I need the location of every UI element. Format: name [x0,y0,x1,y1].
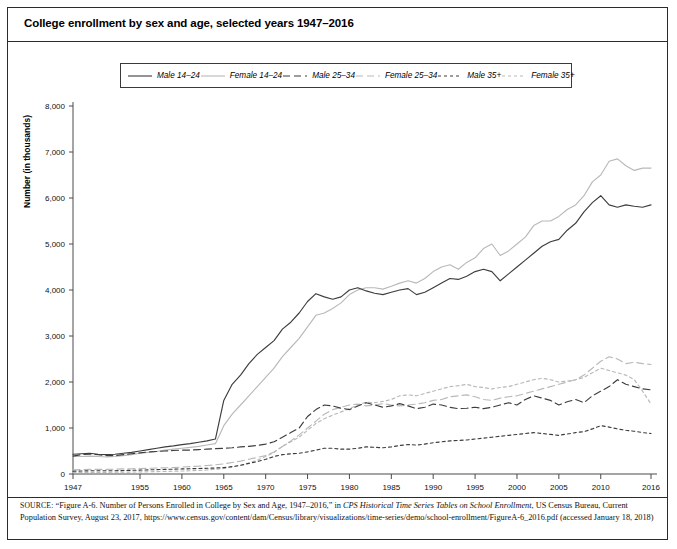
x-tick-label: 1960 [173,483,191,492]
x-tick-label: 2010 [592,483,610,492]
y-tick-label: 5,000 [45,240,66,249]
y-tick-label: 6,000 [45,194,66,203]
y-tick-label: 0 [61,470,66,479]
x-tick-label: 1947 [64,483,82,492]
x-tick-label: 1995 [466,483,484,492]
y-tick-label: 3,000 [45,332,66,341]
series-line-male-14-24 [73,196,651,455]
x-tick-label: 1970 [257,483,275,492]
plot-area: 01,0002,0003,0004,0005,0006,0007,0008,00… [8,8,667,541]
source-divider-bottom [8,539,667,540]
source-label: SOURCE: [20,501,53,510]
source-note: SOURCE: “Figure A-6. Number of Persons E… [20,500,660,524]
x-tick-label: 2016 [642,483,660,492]
line-chart: 01,0002,0003,0004,0005,0006,0007,0008,00… [8,8,667,541]
x-tick-label: 2005 [550,483,568,492]
source-publication-title: CPS Historical Time Series Tables on Sch… [343,501,532,510]
y-tick-label: 2,000 [45,378,66,387]
series-line-male-35 [73,426,651,472]
x-tick-label: 1975 [299,483,317,492]
x-tick-label: 2000 [508,483,526,492]
source-text-1: “Figure A-6. Number of Persons Enrolled … [53,501,342,510]
y-tick-label: 7,000 [45,148,66,157]
y-tick-label: 8,000 [45,102,66,111]
series-line-female-35 [73,368,651,472]
series-line-male-25-34 [73,380,651,456]
y-tick-label: 4,000 [45,286,66,295]
series-line-female-25-34 [73,357,651,470]
series-line-female-14-24 [73,159,651,457]
x-tick-label: 1965 [215,483,233,492]
x-tick-label: 1980 [341,483,359,492]
x-tick-label: 1955 [131,483,149,492]
source-divider-top [8,497,667,498]
x-tick-label: 1990 [424,483,442,492]
y-tick-label: 1,000 [45,424,66,433]
x-tick-label: 1985 [382,483,400,492]
figure-container: College enrollment by sex and age, selec… [7,7,668,540]
